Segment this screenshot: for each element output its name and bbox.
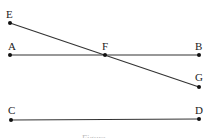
point-b <box>197 53 201 57</box>
label-a: A <box>8 40 16 52</box>
point-d <box>197 117 201 121</box>
point-g <box>197 85 201 89</box>
point-a <box>8 53 12 57</box>
label-e: E <box>6 8 13 20</box>
label-d: D <box>195 104 203 116</box>
label-f: F <box>102 40 108 52</box>
point-f <box>103 53 107 57</box>
label-b: B <box>195 40 202 52</box>
figure-caption: Figure <box>82 133 106 138</box>
line-cd <box>11 119 199 120</box>
point-e <box>8 21 12 25</box>
geometry-diagram: E A F B G C D Figure <box>0 0 209 138</box>
point-c <box>9 118 13 122</box>
label-c: C <box>8 104 15 116</box>
label-g: G <box>195 71 203 83</box>
